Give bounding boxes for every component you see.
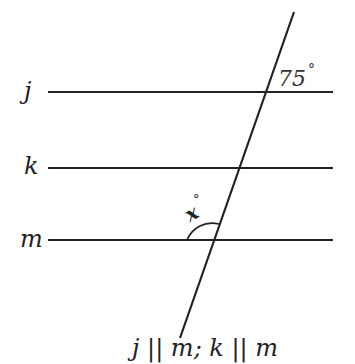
angle-75-value: 75 (278, 66, 306, 91)
label-line-k: k (24, 152, 39, 180)
transversal-line (180, 12, 294, 338)
angle-x-value: x (179, 199, 203, 227)
parallel-caption: j || m; k || m (127, 334, 278, 363)
label-line-j: j (19, 77, 32, 105)
label-line-m: m (20, 225, 43, 253)
angle-75-degree: ° (308, 61, 315, 77)
angle-x-degree: ° (193, 192, 200, 207)
parallel-lines-diagram: j k m 75 ° x ° j || m; k || m (0, 0, 355, 364)
